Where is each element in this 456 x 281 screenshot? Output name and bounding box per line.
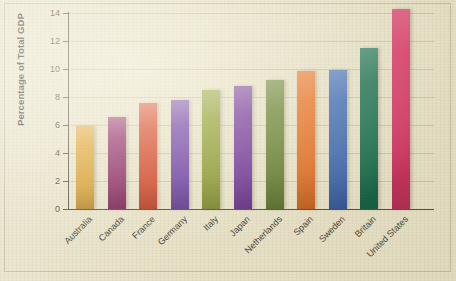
bar-italy <box>202 90 220 209</box>
bar-germany <box>171 100 189 209</box>
bar-canada <box>108 117 126 209</box>
bar-shading <box>76 126 94 209</box>
bar-france <box>139 103 157 209</box>
bar-shading <box>392 9 410 209</box>
y-tick-label: 14 <box>32 9 60 18</box>
bar-shading <box>139 103 157 209</box>
y-tick-label: 8 <box>32 93 60 102</box>
y-axis-title: Percentage of Total GDP <box>15 0 26 150</box>
bar-shading <box>202 90 220 209</box>
y-tick-mark <box>63 69 69 70</box>
y-tick-label: 2 <box>32 177 60 186</box>
bar-shading <box>171 100 189 209</box>
y-tick-mark <box>63 153 69 154</box>
y-tick-label: 4 <box>32 149 60 158</box>
y-tick-label: 12 <box>32 37 60 46</box>
bar-united-states <box>392 9 410 209</box>
bar-spain <box>297 71 315 209</box>
y-tick-label: 10 <box>32 65 60 74</box>
y-tick-label: 6 <box>32 121 60 130</box>
y-tick-mark <box>63 13 69 14</box>
y-tick-mark <box>63 97 69 98</box>
bar-shading <box>266 80 284 209</box>
chart-figure: Percentage of Total GDP 02468101214 Aust… <box>0 0 456 281</box>
bar-netherlands <box>266 80 284 209</box>
bar-japan <box>234 86 252 209</box>
gridline <box>69 69 434 70</box>
bar-shading <box>234 86 252 209</box>
y-tick-label: 0 <box>32 205 60 214</box>
bar-shading <box>297 71 315 209</box>
bar-shading <box>360 48 378 209</box>
plot-area <box>69 13 434 209</box>
bar-shading <box>108 117 126 209</box>
bar-shading <box>329 70 347 209</box>
bar-sweden <box>329 70 347 209</box>
x-axis-line <box>68 209 434 210</box>
y-tick-mark <box>63 125 69 126</box>
y-tick-mark <box>63 41 69 42</box>
y-tick-mark <box>63 181 69 182</box>
bar-australia <box>76 126 94 209</box>
y-tick-mark <box>63 209 69 210</box>
bar-britain <box>360 48 378 209</box>
gridline <box>69 13 434 14</box>
gridline <box>69 41 434 42</box>
